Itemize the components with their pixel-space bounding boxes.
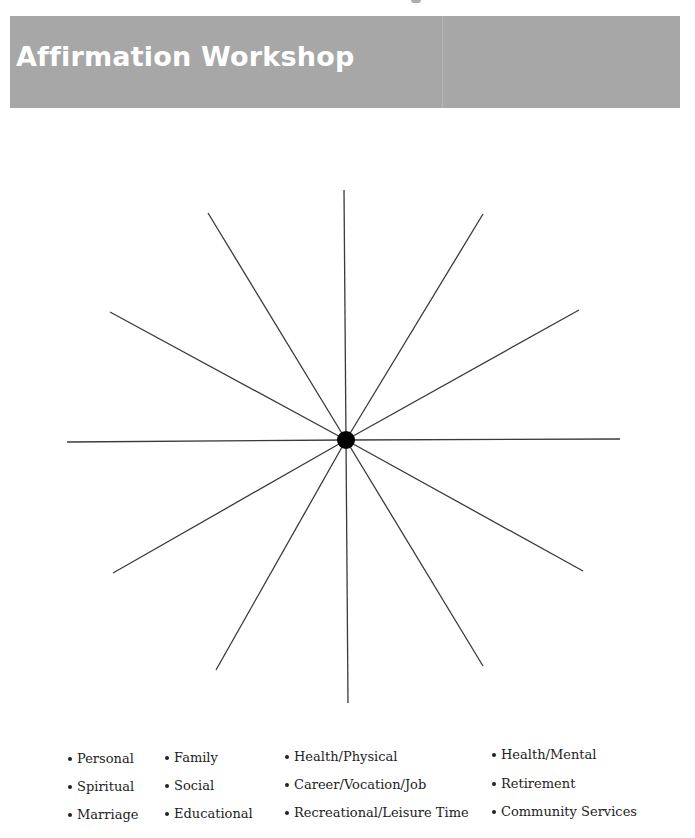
legend-item: Educational	[165, 807, 253, 820]
legend-item: Health/Mental	[492, 748, 596, 761]
legend-item: Community Services	[492, 805, 637, 818]
bullet-icon	[285, 783, 289, 787]
legend-item: Recreational/Leisure Time	[285, 806, 469, 819]
bullet-icon	[492, 810, 496, 814]
legend-item: Family	[165, 751, 218, 764]
bullet-icon	[68, 785, 72, 789]
legend-item: Spiritual	[68, 780, 134, 793]
legend-item: Career/Vocation/Job	[285, 778, 426, 791]
legend-item: Retirement	[492, 777, 575, 790]
bullet-icon	[492, 753, 496, 757]
bullet-icon	[285, 811, 289, 815]
legend-item: Health/Physical	[285, 750, 397, 763]
legend-item: Social	[165, 779, 214, 792]
bullet-icon	[165, 812, 169, 816]
bullet-icon	[68, 813, 72, 817]
legend-item: Marriage	[68, 808, 138, 821]
bullet-icon	[68, 757, 72, 761]
bullet-icon	[285, 755, 289, 759]
bullet-icon	[492, 782, 496, 786]
bullet-icon	[165, 756, 169, 760]
life-areas-legend: Personal Spiritual Marriage Family Socia…	[0, 0, 695, 838]
bullet-icon	[165, 784, 169, 788]
legend-item: Personal	[68, 752, 134, 765]
